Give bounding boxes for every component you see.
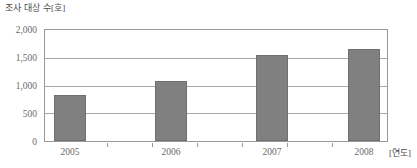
plot-area [44, 29, 388, 142]
x-axis-unit-label: [연도] [389, 147, 411, 159]
bar-chart: 조사 대상 수[호] 2,000 1,500 1,000 500 0 2005 … [0, 0, 417, 168]
y-tick-label-1500: 1,500 [16, 53, 37, 63]
y-tick-label-1000: 1,000 [16, 81, 37, 91]
y-tick-label-2000: 2,000 [16, 25, 37, 35]
x-axis-tick-labels: 2005 2006 2007 2008 [0, 146, 417, 166]
y-axis-tick-labels: 2,000 1,500 1,000 500 0 [0, 0, 41, 168]
x-tick-label-2008: 2008 [355, 146, 374, 158]
bar-2005 [54, 95, 86, 141]
bar-2007 [256, 55, 288, 141]
bar-2008 [348, 49, 380, 141]
x-tick-label-2007: 2007 [263, 146, 282, 158]
x-tick-label-2005: 2005 [61, 146, 80, 158]
bar-2006 [155, 81, 187, 141]
bars-layer [45, 30, 387, 141]
y-tick-label-500: 500 [23, 109, 37, 119]
x-tick-label-2006: 2006 [162, 146, 181, 158]
